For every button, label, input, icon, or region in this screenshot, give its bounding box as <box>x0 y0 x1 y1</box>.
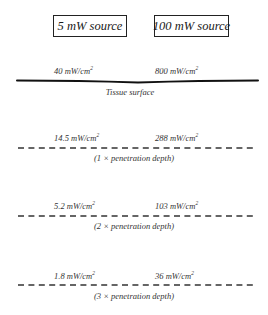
depth3-value-5mw: 1.8 mW/cm2 <box>54 272 95 281</box>
depth3-value-100mw: 36 mW/cm2 <box>155 272 194 281</box>
surface-value-100mw: 800 mW/cm2 <box>155 67 198 76</box>
surface-value-5mw: 40 mW/cm2 <box>54 67 93 76</box>
depth2-value-100mw: 103 mW/cm2 <box>155 202 198 211</box>
tissue-surface-line <box>17 81 258 83</box>
depth1-caption: (1 × penetration depth) <box>94 154 174 163</box>
depth1-value-5mw: 14.5 mW/cm2 <box>54 134 99 143</box>
depth2-caption: (2 × penetration depth) <box>94 222 174 231</box>
tissue-surface-label: Tissue surface <box>106 88 154 97</box>
depth2-value-5mw: 5.2 mW/cm2 <box>54 202 95 211</box>
depth3-caption: (3 × penetration depth) <box>94 292 174 301</box>
depth1-value-100mw: 288 mW/cm2 <box>155 134 198 143</box>
